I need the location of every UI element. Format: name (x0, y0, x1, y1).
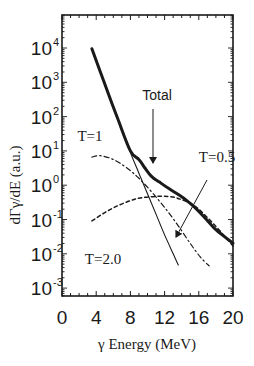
x-tick-label: 16 (188, 307, 209, 328)
y-tick-exponent: 0 (53, 173, 59, 185)
y-tick-exponent: -3 (53, 276, 63, 288)
annotations: TotalT=1T=0.5T=2.0 (77, 87, 235, 267)
y-tick-label: 10 (31, 38, 52, 59)
y-tick-exponent: 1 (53, 139, 59, 151)
x-tick-label: 12 (154, 307, 175, 328)
x-tick-label: 0 (57, 307, 68, 328)
y-tick-exponent: 2 (53, 105, 59, 117)
x-axis-title: γ Energy (MeV) (97, 336, 196, 353)
annotation-label: T=1 (77, 128, 102, 144)
annotation-arrow (176, 180, 207, 237)
y-tick-label: 10 (31, 278, 52, 299)
y-tick-exponent: -1 (53, 208, 63, 220)
annotation-label: T=0.5 (199, 149, 235, 165)
x-tick-label: 8 (125, 307, 136, 328)
y-tick-label: 10 (31, 107, 52, 128)
spectrum-chart: 10410310210110010-110-210-3 048121620 To… (0, 0, 254, 366)
series-t-2-0 (92, 196, 233, 246)
series-total (92, 49, 233, 244)
y-tick-label: 10 (31, 72, 52, 93)
y-axis-title: dΓγ/dE (a.u.) (7, 145, 24, 224)
x-tick-label: 4 (91, 307, 102, 328)
x-tick-label: 20 (222, 307, 243, 328)
y-tick-label: 10 (31, 175, 52, 196)
y-tick-exponent: 4 (53, 36, 59, 48)
y-tick-label: 10 (31, 244, 52, 265)
annotation-label: Total (142, 87, 172, 103)
y-tick-label: 10 (31, 141, 52, 162)
x-axis-tick-labels: 048121620 (57, 307, 244, 328)
y-tick-label: 10 (31, 210, 52, 231)
y-tick-exponent: 3 (53, 70, 59, 82)
y-tick-exponent: -2 (53, 242, 63, 254)
y-axis-tick-labels: 10410310210110010-110-210-3 (31, 36, 63, 299)
annotation-label: T=2.0 (85, 251, 121, 267)
